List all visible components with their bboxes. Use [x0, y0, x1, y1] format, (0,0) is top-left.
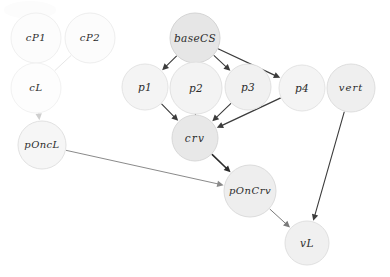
node-label: cP1	[26, 32, 47, 43]
graph-node-pOnCrv[interactable]: pOnCrv	[224, 165, 276, 217]
edge-crv-pOnCrv	[212, 155, 230, 173]
edge-vert-vL	[312, 112, 344, 221]
node-label: pOnCrv	[229, 185, 271, 196]
diagram-canvas: cP1cP2cLpOncLbaseCSp1p2p3p4vertcrvpOnCrv…	[0, 0, 390, 277]
graph-node-vL[interactable]: vL	[285, 221, 329, 265]
graph-node-cP1[interactable]: cP1	[11, 13, 61, 63]
edge-line	[212, 155, 228, 170]
edge-cP2-cL	[55, 56, 71, 71]
node-label: baseCS	[174, 32, 216, 44]
node-label: p2	[189, 82, 203, 94]
edge-line	[162, 104, 176, 118]
edge-line	[55, 56, 71, 71]
node-label: p1	[138, 81, 152, 93]
arrowhead-icon	[36, 113, 42, 120]
graph-node-p2[interactable]: p2	[170, 62, 222, 114]
edge-baseCS-p3	[214, 56, 230, 71]
edge-pOnCrv-vL	[270, 209, 290, 227]
graph-node-p3[interactable]: p3	[225, 64, 271, 110]
graph-node-pOncL[interactable]: pOncL	[18, 121, 66, 169]
node-label: p4	[295, 82, 309, 94]
node-label: vL	[300, 237, 314, 249]
node-label: crv	[185, 132, 205, 144]
arrowhead-icon	[217, 181, 224, 187]
node-label: pOncL	[24, 139, 59, 150]
edge-line	[314, 112, 344, 217]
graph-node-baseCS[interactable]: baseCS	[170, 13, 220, 63]
node-label: p3	[241, 81, 255, 93]
edge-line	[270, 209, 287, 225]
edge-cL-pOncL	[36, 113, 42, 120]
edge-line	[215, 104, 231, 119]
graph-node-crv[interactable]: crv	[172, 115, 218, 161]
graph-svg: cP1cP2cLpOncLbaseCSp1p2p3p4vertcrvpOnCrv…	[0, 0, 390, 277]
graph-node-cP2[interactable]: cP2	[65, 13, 115, 63]
edge-baseCS-p1	[162, 56, 176, 70]
node-layer: cP1cP2cLpOncLbaseCSp1p2p3p4vertcrvpOnCrv…	[11, 13, 375, 265]
edge-p1-crv	[162, 104, 178, 121]
graph-node-vert[interactable]: vert	[327, 64, 375, 112]
node-label: cP2	[80, 32, 101, 43]
graph-node-p4[interactable]: p4	[279, 65, 325, 111]
node-label: vert	[339, 82, 363, 93]
graph-node-p1[interactable]: p1	[122, 64, 168, 110]
node-label: cL	[29, 82, 42, 93]
arrowhead-icon	[312, 214, 318, 221]
graph-node-cL[interactable]: cL	[11, 63, 61, 113]
